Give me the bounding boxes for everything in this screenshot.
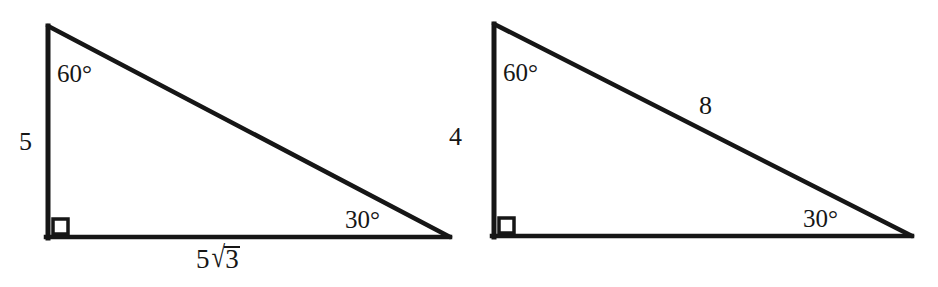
right-triangle-figure: 60° 30° 4 8 — [0, 0, 938, 287]
right-triangle-svg — [0, 0, 938, 287]
right-triangle-hypotenuse-label: 8 — [699, 93, 712, 119]
figure-canvas: 60° 30° 5 5√3 60° 30° 4 8 — [0, 0, 938, 287]
right-triangle-top-angle-label: 60° — [503, 60, 538, 85]
right-triangle-vertical-leg-label: 4 — [449, 124, 462, 150]
right-triangle-right-angle-marker — [499, 218, 514, 233]
right-triangle-bottom-right-angle-label: 30° — [803, 206, 838, 231]
right-triangle-hypotenuse — [494, 24, 912, 236]
